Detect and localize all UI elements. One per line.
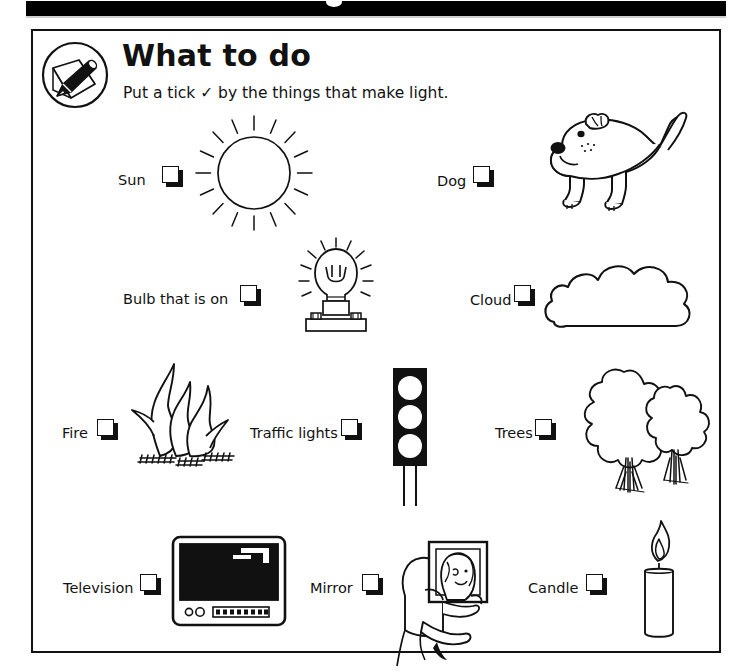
candle-icon <box>635 521 681 641</box>
checkbox-mirror[interactable] <box>362 574 379 591</box>
item-label-fire: Fire <box>62 426 88 441</box>
checkbox-traffic-lights[interactable] <box>341 419 358 436</box>
item-label-traffic-lights: Traffic lights <box>250 426 338 441</box>
checkbox-dog[interactable] <box>473 166 490 183</box>
checkbox-cloud[interactable] <box>514 285 531 302</box>
item-label-television: Television <box>63 581 134 596</box>
traffic-light-icon <box>387 368 435 508</box>
item-label-sun: Sun <box>118 173 146 188</box>
dog-icon <box>540 110 700 220</box>
item-label-cloud: Cloud <box>470 293 511 308</box>
checkbox-fire[interactable] <box>97 419 114 436</box>
instruction-text: Put a tick ✓ by the things that make lig… <box>123 84 448 103</box>
item-label-candle: Candle <box>528 581 578 596</box>
checkbox-television[interactable] <box>140 574 157 591</box>
checkbox-sun[interactable] <box>162 166 179 183</box>
page-title: What to do <box>122 41 311 71</box>
cloud-icon <box>540 256 700 344</box>
checkbox-trees[interactable] <box>535 419 552 436</box>
checkbox-candle[interactable] <box>586 574 603 591</box>
item-label-mirror: Mirror <box>310 581 353 596</box>
person-with-mirror-icon <box>385 538 497 668</box>
television-icon <box>171 535 287 627</box>
pencil-on-paper-icon <box>41 40 109 110</box>
trees-icon <box>566 362 716 497</box>
light-bulb-icon <box>292 237 380 333</box>
item-label-trees: Trees <box>495 426 533 441</box>
item-label-dog: Dog <box>437 174 466 189</box>
fire-icon <box>124 360 244 470</box>
checkbox-bulb[interactable] <box>240 285 257 302</box>
item-label-bulb: Bulb that is on <box>123 292 228 307</box>
scan-artifact-blob <box>326 0 342 7</box>
scan-edge-shadow <box>26 16 726 18</box>
scanned-top-band <box>26 1 726 16</box>
sun-icon <box>196 114 312 232</box>
